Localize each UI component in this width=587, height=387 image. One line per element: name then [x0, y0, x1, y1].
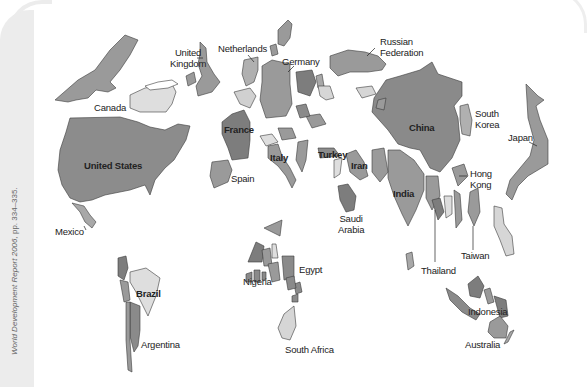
label-russian-federation: Russian Federation — [380, 36, 423, 58]
label-taiwan: Taiwan — [461, 250, 489, 261]
label-netherlands: Netherlands — [218, 43, 267, 54]
country-ireland — [186, 72, 196, 86]
label-indonesia: Indonesia — [468, 306, 507, 317]
country-tunisia — [272, 244, 278, 258]
label-thailand: Thailand — [421, 265, 456, 276]
country-venezuela-colombia — [118, 256, 128, 280]
country-malaysia-peninsula — [454, 190, 462, 228]
label-united-states: United States — [84, 160, 142, 171]
country-sulawesi — [484, 288, 494, 304]
country-spain — [210, 160, 232, 188]
label-germany: Germany — [282, 56, 320, 67]
label-united-kingdom: United Kingdom — [170, 47, 206, 69]
country-argentina — [130, 302, 140, 352]
country-vietnam — [444, 196, 452, 218]
label-hong-kong-line1: Hong — [470, 168, 492, 179]
country-saudi-arabia — [338, 184, 356, 212]
label-saudi-arabia-line1: Saudi — [338, 213, 364, 224]
label-south-korea-line2: Korea — [475, 119, 499, 130]
country-romania — [296, 104, 310, 118]
label-russian-federation-line1: Russian — [380, 36, 423, 47]
country-ukraine — [318, 86, 334, 100]
label-france: France — [224, 124, 254, 135]
label-canada: Canada — [94, 102, 126, 113]
country-belgium — [234, 88, 256, 108]
country-austria — [278, 128, 296, 140]
country-russian-federation — [330, 50, 386, 76]
label-australia: Australia — [465, 339, 500, 350]
label-south-korea: South Korea — [475, 108, 499, 130]
label-south-korea-line1: South — [475, 108, 499, 119]
country-mexico — [72, 203, 96, 228]
country-germany — [260, 60, 292, 118]
country-israel — [334, 158, 342, 178]
label-iran: Iran — [351, 160, 368, 171]
country-philippines — [494, 206, 514, 256]
label-russian-federation-line2: Federation — [380, 47, 423, 58]
country-south-africa — [278, 306, 296, 340]
country-taiwan — [468, 188, 480, 226]
label-south-africa: South Africa — [285, 344, 334, 355]
label-nigeria: Nigeria — [243, 276, 272, 287]
country-kazakhstan — [356, 86, 376, 98]
label-saudi-arabia-line2: Arabia — [338, 224, 364, 235]
country-south-korea — [460, 104, 472, 136]
country-east-africa-3 — [292, 294, 298, 302]
label-egypt: Egypt — [299, 264, 322, 275]
country-switzerland — [260, 134, 278, 146]
country-thailand — [432, 198, 444, 220]
country-pakistan — [372, 148, 388, 182]
label-argentina: Argentina — [141, 339, 180, 350]
country-peru — [120, 280, 130, 302]
label-turkey: Turkey — [318, 149, 347, 160]
label-spain: Spain — [231, 173, 254, 184]
country-sri-lanka — [406, 252, 414, 270]
country-borneo — [468, 276, 484, 298]
country-denmark — [270, 44, 278, 56]
label-hong-kong-line2: Kong — [470, 179, 492, 190]
country-italy — [268, 144, 296, 188]
label-united-kingdom-line1: United — [170, 47, 206, 58]
country-east-africa-2 — [286, 276, 296, 290]
label-mexico: Mexico — [55, 226, 84, 237]
label-italy: Italy — [270, 152, 288, 163]
label-brazil: Brazil — [136, 288, 161, 299]
country-algeria — [248, 242, 264, 262]
country-greece — [296, 140, 308, 172]
label-united-kingdom-line2: Kingdom — [170, 58, 206, 69]
label-saudi-arabia: Saudi Arabia — [338, 213, 364, 235]
country-alaska — [55, 35, 138, 102]
label-india: India — [393, 188, 414, 199]
country-australia — [488, 316, 508, 338]
country-hong-kong — [452, 164, 468, 186]
country-scandinavia — [278, 20, 292, 46]
country-netherlands — [242, 57, 258, 86]
country-poland — [296, 70, 316, 96]
label-china: China — [409, 122, 434, 133]
country-france — [222, 110, 250, 160]
label-japan: Japan — [508, 132, 533, 143]
label-hong-kong: Hong Kong — [470, 168, 492, 190]
country-morocco — [264, 220, 282, 236]
